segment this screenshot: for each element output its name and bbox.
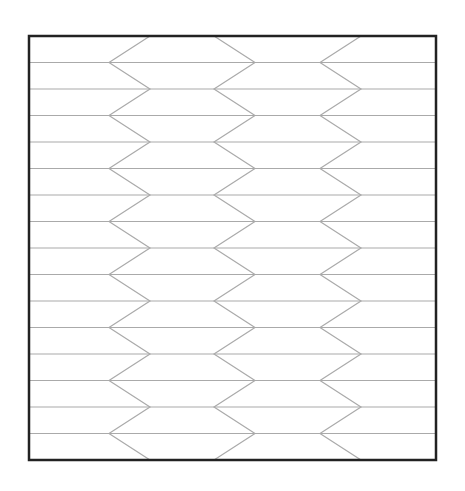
hexagon-pattern-diagram (0, 0, 465, 491)
horizontal-grid-lines (29, 63, 436, 434)
